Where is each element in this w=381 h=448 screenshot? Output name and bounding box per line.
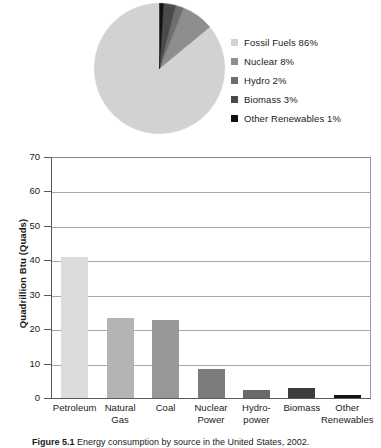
legend-label-fossil-fuels: Fossil Fuels 86% bbox=[244, 37, 318, 48]
x-axis-label-line: Other bbox=[321, 402, 374, 414]
x-axis-baseline bbox=[51, 398, 371, 399]
bar-biomass bbox=[288, 388, 315, 398]
bar-chart-section: Quadrillion Btu (Quads) 010203040506070 … bbox=[0, 150, 381, 425]
x-axis-label-line: Gas bbox=[93, 414, 146, 426]
legend-label-nuclear: Nuclear 8% bbox=[244, 56, 294, 67]
legend-label-hydro: Hydro 2% bbox=[244, 75, 287, 86]
legend-swatch-hydro bbox=[231, 77, 238, 84]
bar-natural-gas bbox=[107, 318, 134, 398]
bar-coal bbox=[152, 320, 179, 398]
bars-group bbox=[52, 157, 370, 398]
y-tick-label-20: 20 bbox=[6, 324, 40, 334]
y-tick-label-10: 10 bbox=[6, 359, 40, 369]
legend-swatch-other-renewables bbox=[231, 115, 238, 122]
x-axis-label-line: power bbox=[230, 414, 283, 426]
legend-swatch-biomass bbox=[231, 96, 238, 103]
x-axis-label-other-renewables: OtherRenewables bbox=[321, 402, 374, 425]
x-axis-labels: PetroleumNaturalGasCoalNuclearPowerHydro… bbox=[52, 402, 370, 442]
pie-legend: Fossil Fuels 86% Nuclear 8% Hydro 2% Bio… bbox=[231, 33, 381, 128]
legend-item-nuclear: Nuclear 8% bbox=[231, 52, 381, 70]
y-tick-mark-10 bbox=[44, 364, 51, 365]
legend-item-hydro: Hydro 2% bbox=[231, 71, 381, 89]
figure-caption-text: Energy consumption by source in the Unit… bbox=[77, 437, 309, 447]
legend-swatch-fossil-fuels bbox=[231, 39, 238, 46]
legend-item-other-renewables: Other Renewables 1% bbox=[231, 109, 381, 127]
y-tick-mark-40 bbox=[44, 260, 51, 261]
legend-label-other-renewables: Other Renewables 1% bbox=[244, 113, 341, 124]
y-tick-label-50: 50 bbox=[6, 221, 40, 231]
bar-nuclear-power bbox=[198, 369, 225, 398]
y-tick-label-70: 70 bbox=[6, 152, 40, 162]
y-tick-mark-60 bbox=[44, 191, 51, 192]
legend-swatch-nuclear bbox=[231, 58, 238, 65]
y-tick-label-40: 40 bbox=[6, 255, 40, 265]
pie-chart-section: Fossil Fuels 86% Nuclear 8% Hydro 2% Bio… bbox=[0, 0, 381, 140]
y-tick-mark-20 bbox=[44, 329, 51, 330]
energy-share-pie-chart bbox=[93, 2, 226, 135]
x-axis-label-line: Renewables bbox=[321, 414, 374, 426]
y-tick-mark-30 bbox=[44, 295, 51, 296]
legend-item-fossil-fuels: Fossil Fuels 86% bbox=[231, 33, 381, 51]
y-tick-mark-0 bbox=[44, 398, 51, 399]
y-tick-mark-50 bbox=[44, 226, 51, 227]
y-tick-mark-70 bbox=[44, 157, 51, 158]
bar-hydropower bbox=[243, 390, 270, 398]
figure-caption: Figure 5.1 Energy consumption by source … bbox=[32, 437, 381, 448]
figure-caption-number: Figure 5.1 bbox=[32, 437, 75, 447]
bar-other-renewables bbox=[334, 395, 361, 398]
bar-petroleum bbox=[61, 257, 88, 398]
y-tick-label-60: 60 bbox=[6, 186, 40, 196]
pie-svg bbox=[93, 2, 226, 135]
y-tick-label-30: 30 bbox=[6, 290, 40, 300]
legend-label-biomass: Biomass 3% bbox=[244, 94, 298, 105]
y-tick-label-0: 0 bbox=[6, 393, 40, 403]
legend-item-biomass: Biomass 3% bbox=[231, 90, 381, 108]
